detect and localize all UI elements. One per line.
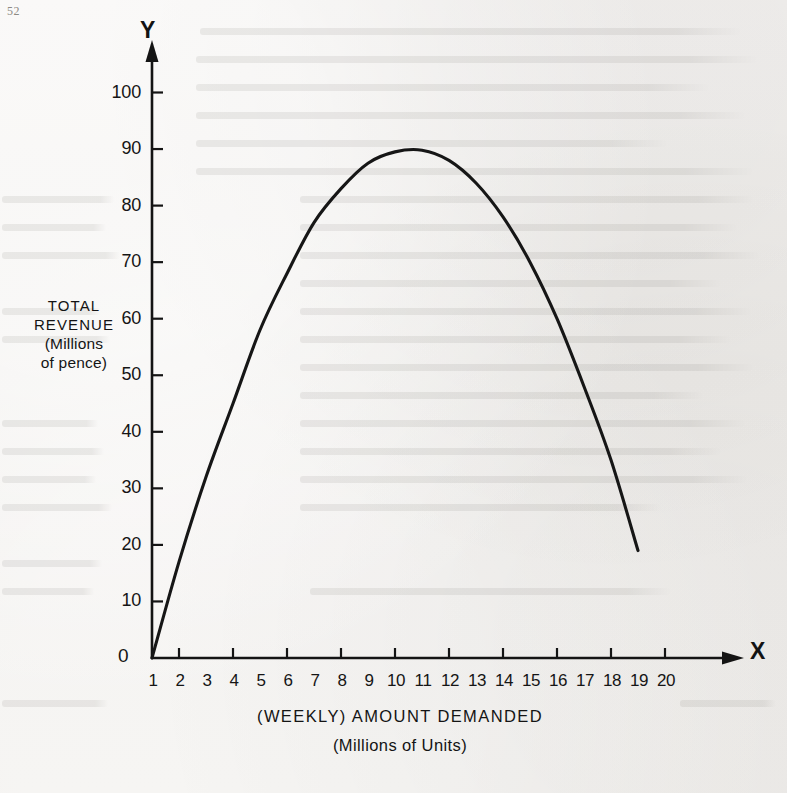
x-tick-label: 7: [300, 671, 330, 691]
x-axis-title-line-1: (WEEKLY) AMOUNT DEMANDED: [150, 702, 650, 731]
x-tick-label: 9: [354, 671, 384, 691]
x-tick-label: 18: [597, 671, 627, 691]
x-tick-label: 8: [327, 671, 357, 691]
x-tick-label: 19: [624, 671, 654, 691]
x-tick-label: 2: [165, 671, 195, 691]
y-tick-label: 10: [95, 590, 141, 611]
origin-label: 0: [118, 645, 129, 667]
x-tick-label: 1: [138, 671, 168, 691]
y-tick-label: 90: [95, 138, 141, 159]
x-tick-label: 12: [435, 671, 465, 691]
y-tick-label: 70: [95, 251, 141, 272]
x-tick-label: 13: [462, 671, 492, 691]
y-tick-label: 20: [95, 534, 141, 555]
x-tick-label: 14: [489, 671, 519, 691]
y-tick-label: 80: [95, 195, 141, 216]
x-tick-label: 3: [192, 671, 222, 691]
y-tick-label: 100: [95, 82, 141, 103]
x-axis-title-line-2: (Millions of Units): [150, 731, 650, 760]
y-axis-title: TOTAL REVENUE (Millions of pence): [14, 296, 134, 372]
y-tick-label: 30: [95, 477, 141, 498]
y-axis-title-line-1: TOTAL: [48, 297, 100, 314]
x-tick-label: 16: [543, 671, 573, 691]
x-axis-letter: X: [750, 638, 765, 665]
x-tick-label: 11: [408, 671, 438, 691]
y-tick-label: 40: [95, 421, 141, 442]
total-revenue-curve: [152, 150, 638, 658]
y-axis-ticks: [152, 93, 163, 602]
y-axis-title-line-4: of pence): [41, 354, 107, 371]
y-axis-title-line-3: (Millions: [45, 335, 104, 352]
x-tick-label: 5: [246, 671, 276, 691]
x-tick-label: 17: [570, 671, 600, 691]
x-tick-label: 4: [219, 671, 249, 691]
x-tick-label: 15: [516, 671, 546, 691]
x-axis-ticks: [179, 648, 665, 658]
x-tick-label: 10: [381, 671, 411, 691]
x-tick-label: 6: [273, 671, 303, 691]
y-axis: [146, 40, 159, 658]
y-axis-letter: Y: [140, 17, 155, 44]
x-tick-label: 20: [651, 671, 681, 691]
x-axis-title: (WEEKLY) AMOUNT DEMANDED (Millions of Un…: [150, 702, 650, 760]
y-axis-title-line-2: REVENUE: [34, 316, 114, 333]
